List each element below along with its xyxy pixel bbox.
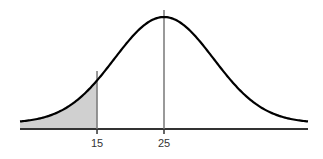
tick-label-15: 15 xyxy=(91,137,103,149)
tick-label-25: 25 xyxy=(158,137,170,149)
shaded-left-tail-area xyxy=(20,80,97,129)
normal-distribution-chart: 15 25 xyxy=(0,0,323,159)
